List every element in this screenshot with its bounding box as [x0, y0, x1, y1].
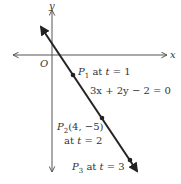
point-p2 [100, 116, 105, 121]
point-p1 [71, 73, 76, 78]
origin-label: O [40, 58, 48, 69]
p2-label: P2(4, −5) [56, 121, 104, 135]
p3-label: P3 at t = 3 [71, 161, 125, 175]
parametric-line-diagram: y x O P1 at t = 1 3x + 2y − 2 = 0 P2(4, … [0, 0, 181, 184]
parametric-line [41, 27, 137, 171]
y-axis-label: y [48, 0, 55, 11]
x-axis-label: x [170, 49, 176, 60]
line-equation-label: 3x + 2y − 2 = 0 [90, 85, 171, 96]
point-p3 [128, 158, 133, 163]
p1-label: P1 at t = 1 [77, 66, 131, 80]
p2-t-label: at t = 2 [64, 135, 102, 146]
